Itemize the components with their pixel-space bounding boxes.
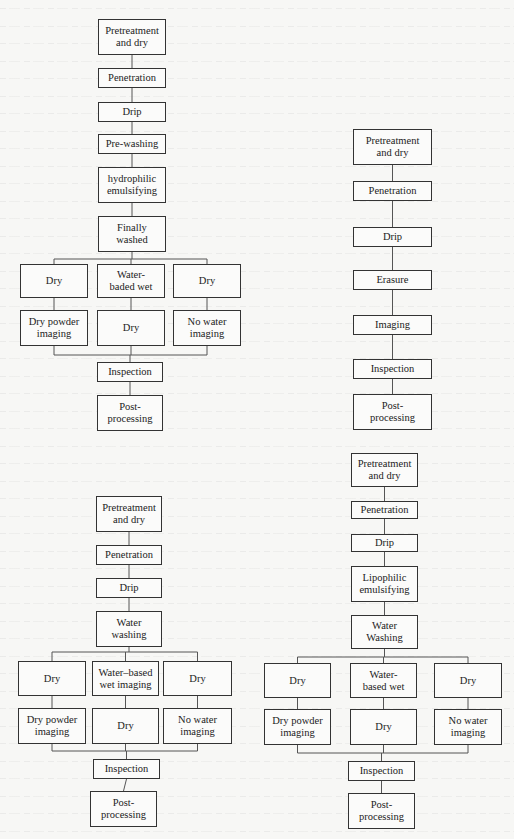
step-box-imaging: Imaging — [353, 315, 432, 335]
step-box-no-water-imaging: No water imaging — [173, 310, 241, 346]
step-box-drip: Drip — [98, 102, 166, 122]
step-box-post-processing: Post- processing — [90, 791, 157, 827]
step-box-post-processing: Post- processing — [353, 394, 432, 430]
step-box-inspection: Inspection — [93, 759, 160, 779]
step-box-water-washing: Water Washing — [351, 615, 418, 649]
step-box-no-water-imaging: No water imaging — [434, 709, 502, 745]
step-box-hydrophilic-emulsifying: hydrophilic emulsifying — [98, 167, 166, 203]
step-box-water-based-wet-imaging: Water–based wet imaging — [92, 661, 159, 696]
step-box-penetration: Penetration — [96, 545, 162, 565]
step-box-dry-powder-imaging: Dry powder imaging — [264, 709, 331, 745]
step-box-pretreatment-and-dry: Pretreatment and dry — [353, 129, 432, 165]
step-box-lipophilic-emulsifying: Lipophilic emulsifying — [351, 566, 418, 602]
step-box-penetration: Penetration — [98, 68, 166, 88]
step-box-dry: Dry — [350, 709, 417, 745]
step-box-dry: Dry — [20, 264, 88, 298]
step-box-dry-powder-imaging: Dry powder imaging — [20, 310, 88, 346]
step-box-no-water-imaging: No water imaging — [163, 708, 232, 744]
step-box-dry: Dry — [18, 661, 86, 696]
step-box-post-processing: Post- processing — [348, 793, 415, 829]
step-box-inspection: Inspection — [97, 362, 163, 382]
step-box-drip: Drip — [351, 534, 418, 552]
step-box-water-based-wet: Water- based wet — [350, 663, 417, 698]
step-box-dry: Dry — [163, 661, 232, 696]
connector-line — [124, 779, 127, 791]
step-box-pretreatment-and-dry: Pretreatment and dry — [98, 19, 166, 55]
step-box-dry: Dry — [434, 663, 502, 698]
step-box-pretreatment-and-dry: Pretreatment and dry — [351, 453, 418, 487]
step-box-drip: Drip — [96, 578, 162, 598]
step-box-pretreatment-and-dry: Pretreatment and dry — [96, 496, 162, 532]
step-box-finally-washed: Finally washed — [98, 216, 166, 252]
step-box-water-washing: Water washing — [96, 611, 162, 647]
step-box-erasure: Erasure — [353, 270, 432, 290]
step-box-inspection: Inspection — [348, 761, 415, 781]
step-box-drip: Drip — [353, 227, 432, 247]
step-box-penetration: Penetration — [353, 181, 432, 201]
step-box-dry: Dry — [264, 663, 331, 698]
step-box-dry: Dry — [97, 310, 165, 346]
step-box-water-baded-wet: Water- baded wet — [97, 264, 165, 298]
step-box-dry: Dry — [173, 264, 241, 298]
step-box-dry: Dry — [92, 708, 159, 744]
step-box-pre-washing: Pre-washing — [98, 134, 166, 154]
step-box-inspection: Inspection — [353, 359, 432, 379]
step-box-penetration: Penetration — [351, 501, 418, 519]
step-box-post-processing: Post- processing — [97, 395, 163, 431]
step-box-dry-powder-imaging: Dry powder imaging — [18, 708, 86, 744]
